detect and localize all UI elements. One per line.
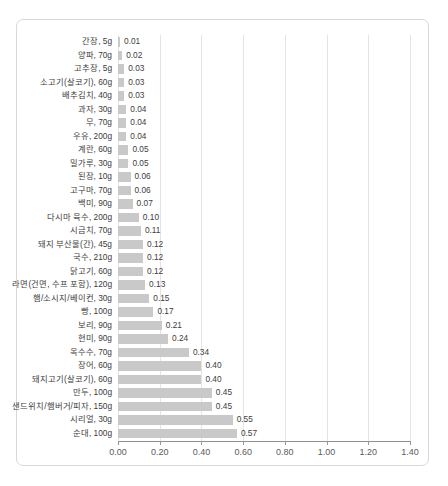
bar-track: 0.02 [118, 49, 410, 63]
bar-row[interactable]: 다시마 육수, 200g0.10 [17, 211, 428, 225]
category-label: 다시마 육수, 200g [47, 211, 112, 225]
bar[interactable] [118, 199, 133, 209]
bar[interactable] [118, 402, 212, 412]
bar-row[interactable]: 돼지 부산물(간), 45g0.12 [17, 238, 428, 252]
bar-row[interactable]: 계란, 60g0.05 [17, 143, 428, 157]
bar-track: 0.04 [118, 116, 410, 130]
bar-row[interactable]: 고구마, 70g0.06 [17, 184, 428, 198]
bar-value-label: 0.12 [143, 238, 163, 252]
bar[interactable] [118, 348, 189, 358]
bar-row[interactable]: 옥수수, 70g0.34 [17, 346, 428, 360]
bar-value-label: 0.05 [128, 157, 148, 171]
bar-track: 0.11 [118, 224, 410, 238]
bar-row[interactable]: 장어, 60g0.40 [17, 359, 428, 373]
bar-row[interactable]: 무, 70g0.04 [17, 116, 428, 130]
bar[interactable] [118, 105, 126, 115]
bar-value-label: 0.01 [120, 35, 140, 49]
x-axis-line [118, 441, 410, 442]
x-axis-tick [118, 441, 119, 445]
bar-row[interactable]: 빵, 100g0.17 [17, 305, 428, 319]
bar[interactable] [118, 213, 139, 223]
x-axis-tick [410, 441, 411, 445]
x-axis-tick-label: 1.40 [401, 447, 419, 457]
x-axis-tick-label: 1.00 [318, 447, 336, 457]
bar[interactable] [118, 186, 131, 196]
bar-value-label: 0.12 [143, 265, 163, 279]
bar-row[interactable]: 시금치, 70g0.11 [17, 224, 428, 238]
bar[interactable] [118, 253, 143, 263]
bar-track: 0.12 [118, 265, 410, 279]
bar-row[interactable]: 백미, 90g0.07 [17, 197, 428, 211]
bar[interactable] [118, 388, 212, 398]
bar-value-label: 0.03 [124, 62, 144, 76]
bar-row[interactable]: 간장, 5g0.01 [17, 35, 428, 49]
x-axis-tick [201, 441, 202, 445]
category-label: 시리얼, 30g [70, 413, 112, 427]
bar-row[interactable]: 샌드위치/햄버거/피자, 150g0.45 [17, 400, 428, 414]
bar-track: 0.03 [118, 62, 410, 76]
bar[interactable] [118, 145, 128, 155]
bar-row[interactable]: 시리얼, 30g0.55 [17, 413, 428, 427]
bar-track: 0.12 [118, 238, 410, 252]
bar[interactable] [118, 361, 201, 371]
bar[interactable] [118, 118, 126, 128]
bar-value-label: 0.21 [162, 319, 182, 333]
bar-track: 0.06 [118, 170, 410, 184]
bar[interactable] [118, 172, 131, 182]
category-label: 계란, 60g [78, 143, 112, 157]
bar[interactable] [118, 334, 168, 344]
bar-track: 0.21 [118, 319, 410, 333]
bar-track: 0.57 [118, 427, 410, 441]
bar-row[interactable]: 라면(건면, 수프 포함), 120g0.13 [17, 278, 428, 292]
bar[interactable] [118, 226, 141, 236]
category-label: 닭고기, 60g [70, 265, 112, 279]
bar-row[interactable]: 밀가루, 30g0.05 [17, 157, 428, 171]
category-label: 고구마, 70g [70, 184, 112, 198]
bar-track: 0.03 [118, 89, 410, 103]
bar[interactable] [118, 321, 162, 331]
x-axis-tick-label: 0.60 [234, 447, 252, 457]
bar[interactable] [118, 429, 237, 439]
bar-row[interactable]: 현미, 90g0.24 [17, 332, 428, 346]
x-axis-tick-label: 0.40 [193, 447, 211, 457]
bar-track: 0.17 [118, 305, 410, 319]
bar[interactable] [118, 375, 201, 385]
bar[interactable] [118, 159, 128, 169]
bar-row[interactable]: 양파, 70g0.02 [17, 49, 428, 63]
bar-row[interactable]: 소고기(살코기), 60g0.03 [17, 76, 428, 90]
bar-row[interactable]: 된장, 10g0.06 [17, 170, 428, 184]
bar[interactable] [118, 280, 145, 290]
bar-row[interactable]: 우유, 200g0.04 [17, 130, 428, 144]
bar[interactable] [118, 132, 126, 142]
bar-track: 0.55 [118, 413, 410, 427]
bar-row[interactable]: 돼지고기(살코기), 60g0.40 [17, 373, 428, 387]
bar[interactable] [118, 307, 153, 317]
bar-value-label: 0.13 [145, 278, 165, 292]
category-label: 양파, 70g [78, 49, 112, 63]
bar-row[interactable]: 고추장, 5g0.03 [17, 62, 428, 76]
bar-row[interactable]: 햄/소시지/베이컨, 30g0.15 [17, 292, 428, 306]
bar-track: 0.12 [118, 251, 410, 265]
bar-value-label: 0.04 [126, 103, 146, 117]
bar-row[interactable]: 순대, 100g0.57 [17, 427, 428, 441]
bar-track: 0.24 [118, 332, 410, 346]
bar-row[interactable]: 닭고기, 60g0.12 [17, 265, 428, 279]
bar-value-label: 0.04 [126, 130, 146, 144]
bar-row[interactable]: 보리, 90g0.21 [17, 319, 428, 333]
bar-value-label: 0.40 [201, 373, 221, 387]
bar-value-label: 0.11 [141, 224, 161, 238]
bar-row[interactable]: 만두, 100g0.45 [17, 386, 428, 400]
bar-row[interactable]: 과자, 30g0.04 [17, 103, 428, 117]
bar[interactable] [118, 415, 233, 425]
bar-track: 0.01 [118, 35, 410, 49]
bar-value-label: 0.34 [189, 346, 209, 360]
bar[interactable] [118, 267, 143, 277]
chart-card: 간장, 5g0.01양파, 70g0.02고추장, 5g0.03소고기(살코기)… [16, 19, 429, 466]
bar[interactable] [118, 240, 143, 250]
bar[interactable] [118, 294, 149, 304]
bar-value-label: 0.02 [122, 49, 142, 63]
bar-track: 0.40 [118, 373, 410, 387]
category-label: 시금치, 70g [70, 224, 112, 238]
bar-row[interactable]: 국수, 210g0.12 [17, 251, 428, 265]
bar-row[interactable]: 배추김치, 40g0.03 [17, 89, 428, 103]
